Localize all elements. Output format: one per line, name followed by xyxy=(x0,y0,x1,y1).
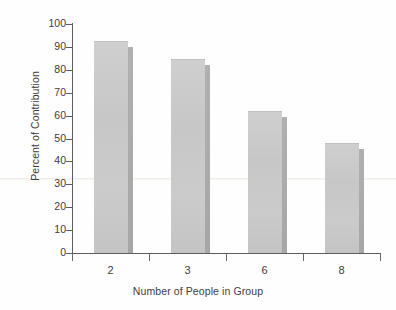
bar xyxy=(171,60,210,254)
y-axis-tick-label: 30 xyxy=(24,177,66,189)
bar xyxy=(94,42,133,253)
bar-face xyxy=(248,111,282,253)
bar-face xyxy=(325,143,359,253)
bar-face xyxy=(94,41,128,253)
y-axis-tick-label-wrap: 20 xyxy=(0,207,66,208)
bar-side-shadow xyxy=(359,149,364,253)
x-axis-tick xyxy=(226,254,227,261)
y-axis-tick-label-wrap: 30 xyxy=(0,184,66,185)
bar xyxy=(325,144,364,253)
y-axis-tick-label-wrap: 80 xyxy=(0,70,66,71)
y-axis-tick-label-wrap: 10 xyxy=(0,230,66,231)
y-axis-tick-label: 60 xyxy=(24,109,66,121)
y-axis-tick-label: 10 xyxy=(24,223,66,235)
x-axis-title: Number of People in Group xyxy=(0,285,396,297)
bar xyxy=(248,112,287,253)
y-axis-tick-label: 70 xyxy=(24,86,66,98)
y-axis-tick-label-wrap: 50 xyxy=(0,139,66,140)
x-axis-category-label: 8 xyxy=(322,264,362,276)
y-axis-tick-label-wrap: 90 xyxy=(0,47,66,48)
y-axis-tick-label: 20 xyxy=(24,200,66,212)
bar-face xyxy=(171,59,205,254)
x-axis-tick xyxy=(303,254,304,261)
bar-chart-figure: Percent of Contribution 1009080706050403… xyxy=(0,0,396,310)
y-axis-tick-label: 0 xyxy=(24,246,66,258)
y-axis-tick-label: 90 xyxy=(24,40,66,52)
x-axis-tick xyxy=(149,254,150,261)
x-axis-tick xyxy=(72,254,73,261)
x-axis-tick xyxy=(380,254,381,261)
y-axis-tick-label-wrap: 100 xyxy=(0,24,66,25)
y-axis-tick-label: 100 xyxy=(24,17,66,29)
x-axis-category-label: 3 xyxy=(168,264,208,276)
y-axis-tick-label-wrap: 0 xyxy=(0,253,66,254)
bar-side-shadow xyxy=(205,65,210,254)
x-axis-category-label: 6 xyxy=(245,264,285,276)
y-axis-tick-label: 80 xyxy=(24,63,66,75)
y-axis-tick-label-wrap: 40 xyxy=(0,161,66,162)
y-axis-tick-label: 50 xyxy=(24,132,66,144)
y-axis-tick-label-wrap: 60 xyxy=(0,116,66,117)
y-axis-tick-label: 40 xyxy=(24,154,66,166)
bar-side-shadow xyxy=(128,47,133,253)
x-axis-category-label: 2 xyxy=(91,264,131,276)
y-axis-tick-label-wrap: 70 xyxy=(0,93,66,94)
plot-area xyxy=(72,24,380,253)
bar-side-shadow xyxy=(282,117,287,253)
